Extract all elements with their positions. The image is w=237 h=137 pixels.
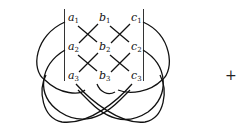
label-b3: b3 <box>99 69 111 83</box>
label-b1: b1 <box>99 11 111 25</box>
label-a1: a1 <box>68 11 79 25</box>
knot-diagram: a1 b1 c1 a2 b2 c2 a3 b3 c3 + <box>0 0 237 137</box>
node-labels: a1 b1 c1 a2 b2 c2 a3 b3 c3 <box>68 11 142 83</box>
label-a2: a2 <box>68 40 79 54</box>
label-a3: a3 <box>68 69 79 83</box>
label-c3: c3 <box>131 69 142 83</box>
label-c1: c1 <box>131 11 142 25</box>
plus-operator: + <box>225 67 237 83</box>
label-c2: c2 <box>131 40 142 54</box>
label-b2: b2 <box>99 40 111 54</box>
